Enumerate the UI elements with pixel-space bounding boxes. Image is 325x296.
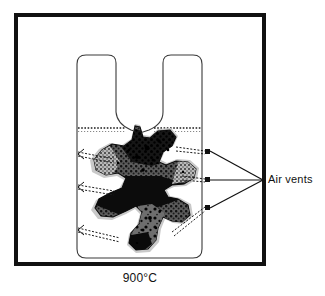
vent-marker-bottom <box>205 205 210 210</box>
vent-marker-middle <box>205 177 210 182</box>
diagram-root: Air vents 900°C <box>0 0 325 296</box>
diagram-canvas <box>0 0 325 296</box>
temperature-caption: 900°C <box>0 271 280 285</box>
vent-marker-top <box>205 149 210 154</box>
air-vents-leader-lines <box>210 151 263 208</box>
vent-markers <box>205 149 210 210</box>
air-vents-label: Air vents <box>268 173 313 185</box>
